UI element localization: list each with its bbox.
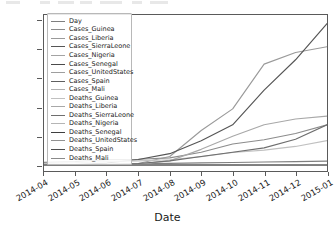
legend-label: Cases_Senegal [69, 61, 118, 68]
legend-item: Cases_SierraLeone [51, 43, 128, 52]
legend-label: Deaths_Guinea [69, 95, 118, 102]
x-axis-tick-mark [43, 172, 44, 176]
legend-color-swatch [51, 132, 65, 133]
legend-item: Deaths_Spain [51, 145, 128, 154]
legend-item: Cases_Guinea [51, 26, 128, 35]
artifact-fragment [6, 1, 20, 4]
legend-color-swatch [51, 64, 65, 65]
legend-color-swatch [51, 72, 65, 73]
artifact-fragment [100, 1, 122, 4]
legend-label: Cases_SierraLeone [69, 43, 130, 50]
legend-item: Deaths_Liberia [51, 102, 128, 111]
legend-item: Cases_Liberia [51, 34, 128, 43]
legend-color-swatch [51, 149, 65, 150]
legend-label: Cases_UnitedStates [69, 69, 134, 76]
legend-label: Deaths_Liberia [69, 103, 117, 110]
legend-color-swatch [51, 21, 65, 22]
x-axis-tick-mark [170, 172, 171, 176]
legend-item: Deaths_Nigeria [51, 120, 128, 129]
legend-item: Cases_UnitedStates [51, 68, 128, 77]
legend-item: Deaths_Mali [51, 154, 128, 163]
x-axis-tick-mark [233, 172, 234, 176]
legend-color-swatch [51, 46, 65, 47]
artifact-fragment [132, 1, 142, 4]
legend-label: Deaths_Mali [69, 155, 109, 162]
legend-item: Cases_Senegal [51, 60, 128, 69]
legend-item: Cases_Mali [51, 85, 128, 94]
y-axis-tick-mark [37, 49, 42, 50]
x-axis-tick-mark [265, 172, 266, 176]
legend-label: Deaths_Senegal [69, 129, 121, 136]
legend-label: Cases_Guinea [69, 26, 115, 33]
y-axis-tick-mark [37, 108, 42, 109]
legend: DayCases_GuineaCases_LiberiaCases_Sierra… [47, 13, 132, 165]
artifact-fragment [58, 1, 74, 4]
x-axis-tick-mark [201, 172, 202, 176]
y-axis-tick-mark [37, 78, 42, 79]
legend-color-swatch [51, 140, 65, 141]
legend-color-swatch [51, 38, 65, 39]
x-axis-label: Date [0, 211, 335, 224]
cropped-toolbar-artifact [0, 0, 335, 6]
legend-color-swatch [51, 158, 65, 159]
legend-color-swatch [51, 55, 65, 56]
legend-color-swatch [51, 89, 65, 90]
legend-color-swatch [51, 106, 65, 107]
y-axis-tick-mark [37, 166, 42, 167]
x-axis-tick-mark [296, 172, 297, 176]
x-axis-tick-mark [328, 172, 329, 176]
legend-label: Deaths_UnitedStates [69, 137, 137, 144]
legend-color-swatch [51, 81, 65, 82]
legend-color-swatch [51, 123, 65, 124]
legend-item: Deaths_SierraLeone [51, 111, 128, 120]
legend-label: Cases_Nigeria [69, 52, 115, 59]
legend-label: Deaths_Spain [69, 146, 113, 153]
x-axis-tick-mark [75, 172, 76, 176]
legend-color-swatch [51, 98, 65, 99]
legend-item: Deaths_Senegal [51, 128, 128, 137]
legend-item: Day [51, 17, 128, 26]
legend-label: Cases_Liberia [69, 35, 114, 42]
y-axis-tick-mark [37, 137, 42, 138]
legend-color-swatch [51, 115, 65, 116]
x-axis-tick-mark [138, 172, 139, 176]
x-axis-tick-mark [106, 172, 107, 176]
legend-label: Cases_Spain [69, 78, 110, 85]
legend-label: Cases_Mali [69, 86, 105, 93]
artifact-fragment [40, 1, 50, 4]
artifact-fragment [150, 1, 168, 4]
legend-label: Deaths_Nigeria [69, 120, 119, 127]
legend-item: Deaths_Guinea [51, 94, 128, 103]
artifact-fragment [80, 1, 92, 4]
legend-item: Cases_Spain [51, 77, 128, 86]
legend-item: Cases_Nigeria [51, 51, 128, 60]
legend-item: Deaths_UnitedStates [51, 137, 128, 146]
y-axis-tick-mark [37, 20, 42, 21]
legend-color-swatch [51, 29, 65, 30]
legend-label: Day [69, 18, 82, 25]
ebola-cases-deaths-line-chart: 0200040006000800010000 2014-042014-05201… [0, 0, 335, 238]
legend-label: Deaths_SierraLeone [69, 112, 134, 119]
